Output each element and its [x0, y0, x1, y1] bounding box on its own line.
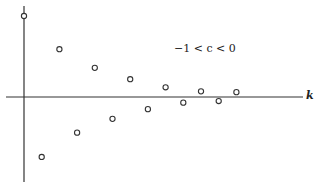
data-point	[128, 77, 133, 82]
data-point	[198, 89, 203, 94]
data-point	[39, 154, 44, 159]
data-point	[181, 100, 186, 105]
data-point	[57, 47, 62, 52]
data-point	[234, 90, 239, 95]
data-point	[21, 13, 26, 18]
data-point	[75, 130, 80, 135]
data-point	[216, 98, 221, 103]
x-axis-label: k	[306, 89, 314, 102]
data-point	[145, 107, 150, 112]
data-points	[21, 13, 239, 159]
parameter-annotation: −1 < c < 0	[174, 42, 236, 55]
data-point	[92, 65, 97, 70]
data-point	[110, 116, 115, 121]
chart-plot	[0, 0, 314, 185]
data-point	[163, 85, 168, 90]
